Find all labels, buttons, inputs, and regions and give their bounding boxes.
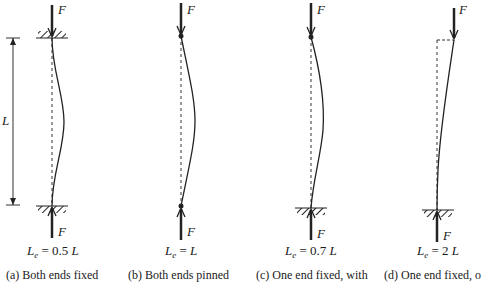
column-b	[177, 3, 195, 240]
caption-a: (a) Both ends fixed	[6, 268, 98, 282]
force-label-c-bottom: F	[317, 226, 325, 242]
effective-length-b: Le = L	[165, 243, 197, 259]
caption-b: (b) Both ends pinned	[128, 268, 229, 282]
caption-c: (c) One end fixed, with	[256, 268, 368, 282]
force-label-d-bottom: F	[443, 228, 451, 244]
column-d	[422, 8, 458, 242]
force-label-a-bottom: F	[58, 224, 66, 240]
column-a	[36, 5, 68, 238]
force-label-b-top: F	[187, 2, 195, 18]
caption-d: (d) One end fixed, o	[384, 268, 481, 282]
force-label-b-bottom: F	[187, 224, 195, 240]
force-label-c-top: F	[317, 2, 325, 18]
effective-length-d: Le = 2 L	[417, 243, 459, 259]
length-label: L	[2, 113, 9, 129]
force-label-a-top: F	[58, 2, 66, 18]
force-label-d-top: F	[459, 2, 467, 18]
effective-length-c: Le = 0.7 L	[285, 243, 337, 259]
effective-length-a: Le = 0.5 L	[27, 243, 79, 259]
column-c	[295, 3, 327, 240]
